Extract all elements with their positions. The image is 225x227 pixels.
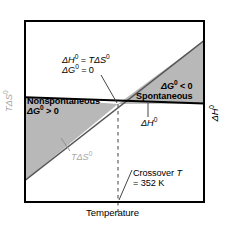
crossover-annotation: Crossover T = 352 K xyxy=(133,168,182,189)
thermodynamics-figure: ΔH0 = TΔS0 ΔG0 = 0 Nonspontaneous ΔG0 > … xyxy=(0,0,225,227)
equation-line-2: ΔG0 = 0 xyxy=(62,65,110,75)
equation-annotation: ΔH0 = TΔS0 ΔG0 = 0 xyxy=(62,55,110,76)
y-axis-left-title: TΔS0 xyxy=(4,79,15,123)
equation-line-1: ΔH0 = TΔS0 xyxy=(62,55,110,65)
nonspontaneous-inequality: ΔG0 > 0 xyxy=(27,106,100,116)
leader-line-equations xyxy=(101,75,117,103)
crossover-value: = 352 K xyxy=(133,178,182,188)
dh-series-label: ΔH0 xyxy=(141,118,157,128)
tds-series-label: TΔS0 xyxy=(71,152,92,162)
crossover-title: Crossover T xyxy=(133,168,182,178)
spontaneous-word: Spontaneous xyxy=(136,91,193,101)
nonspontaneous-word: Nonspontaneous xyxy=(27,96,100,106)
nonspontaneous-region-label: Nonspontaneous ΔG0 > 0 xyxy=(27,96,100,116)
spontaneous-inequality: ΔG0 < 0 xyxy=(136,81,193,91)
x-axis-title: Temperature xyxy=(0,208,225,219)
y-axis-right-title: ΔH0 xyxy=(210,91,221,135)
leader-line-crossover xyxy=(119,170,132,200)
spontaneous-region-label: ΔG0 < 0 Spontaneous xyxy=(136,81,193,101)
